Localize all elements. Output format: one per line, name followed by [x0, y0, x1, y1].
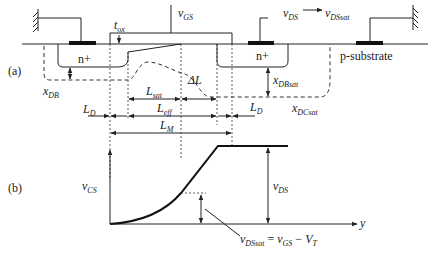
source-label: n+: [78, 52, 91, 66]
equation-leader: [205, 209, 240, 236]
cross-section-panel: n+ vGS tox n+ vDS vDSsat p-substrate: [8, 5, 428, 178]
channel-pinch: [128, 44, 181, 52]
leff-label: Leff: [156, 101, 173, 117]
drain-region: [217, 44, 288, 67]
drain-sat-label: vDSsat: [325, 6, 350, 22]
source-region: [58, 44, 128, 67]
panel-a-label: (a): [8, 64, 21, 78]
vds-label: vDS: [273, 179, 288, 195]
gate-voltage-label: vGS: [178, 6, 193, 22]
lsat-label: Lsat: [145, 84, 163, 100]
ld-right-label: LD: [249, 100, 263, 116]
panel-b-label: (b): [8, 181, 22, 195]
vdsat-equation: vDSsat = vGS − VT: [240, 232, 317, 248]
xdcsat-label: xDCsat: [291, 101, 319, 117]
mosfet-diagram: n+ vGS tox n+ vDS vDSsat p-substrate: [0, 0, 436, 254]
drain-voltage-label: vDS: [283, 6, 298, 22]
tox-label: tox: [114, 18, 125, 34]
vcs-axis-label: vCS: [82, 179, 97, 195]
drain-contact: [248, 41, 274, 45]
gate-oxide: [110, 33, 232, 44]
voltage-profile-panel: (b) vCS y vDS vDSsat = vGS − VT: [8, 146, 366, 248]
drain-label: n+: [256, 49, 269, 63]
drain-lead: [260, 18, 268, 42]
xdbsat-label: xDBsat: [272, 73, 299, 89]
ground-icon-right: [370, 5, 418, 42]
xdb-label: xDB: [42, 84, 59, 100]
ld-left-label: LD: [82, 102, 96, 118]
y-axis-label: y: [359, 216, 366, 230]
lm-label: LM: [159, 118, 175, 134]
substrate-label: p-substrate: [340, 49, 393, 63]
delta-l-label: ΔL: [187, 73, 202, 87]
source-contact: [69, 41, 96, 45]
ground-icon-left: [33, 9, 81, 43]
vcs-curve: [110, 146, 288, 224]
